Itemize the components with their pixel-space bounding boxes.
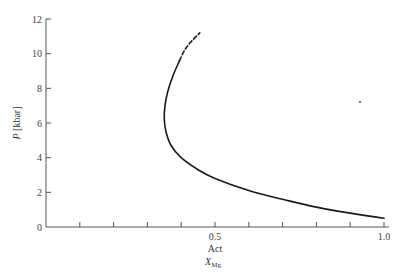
y-tick-label: 12 (32, 14, 42, 25)
chart: 024681012 0.51.0 P [kbar] Act XMg (0, 0, 413, 277)
solid-curve (164, 61, 384, 219)
dashed-curve (180, 33, 200, 61)
y-tick-label: 4 (37, 152, 42, 163)
y-axis-title: P [kbar] (11, 106, 22, 140)
x-tick-label: 1.0 (378, 231, 391, 242)
stray-dot (359, 101, 361, 103)
data-series (164, 33, 384, 218)
y-tick-label: 2 (37, 187, 42, 198)
x-tick-label: 0.5 (209, 231, 222, 242)
y-axis-title-var: P (11, 133, 22, 140)
axes (46, 19, 389, 227)
y-tick-label: 0 (37, 222, 42, 233)
y-tick-label: 6 (37, 118, 42, 129)
x-axis-title-subscript: Mg (211, 261, 221, 269)
y-tick-label: 10 (32, 48, 42, 59)
x-ticks: 0.51.0 (80, 222, 390, 242)
y-axis-title-unit: [kbar] (11, 106, 22, 133)
y-ticks: 024681012 (32, 14, 51, 233)
y-tick-label: 8 (37, 83, 42, 94)
x-axis-title-line1: Act (208, 243, 223, 254)
x-axis-title-line2: XMg (204, 256, 221, 269)
